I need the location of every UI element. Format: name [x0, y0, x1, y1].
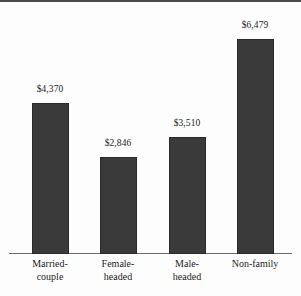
category-label-female-headed: Female- headed — [84, 258, 152, 283]
bar-female-headed[interactable] — [100, 157, 137, 254]
category-label-male-headed: Male- headed — [153, 258, 221, 283]
bar-value-label: $2,846 — [84, 138, 152, 148]
bar-male-headed[interactable] — [169, 137, 206, 254]
bar-non-family[interactable] — [237, 39, 274, 254]
category-label-married-couple: Married- couple — [16, 258, 84, 283]
bar-chart-figure: $4,370 Married- couple $2,846 Female- he… — [0, 0, 301, 296]
bar-value-label: $4,370 — [16, 84, 84, 94]
category-label-non-family: Non-family — [219, 258, 291, 271]
bar-married-couple[interactable] — [32, 103, 69, 254]
bar-value-label: $3,510 — [153, 118, 221, 128]
bar-value-label: $6,479 — [221, 20, 289, 30]
